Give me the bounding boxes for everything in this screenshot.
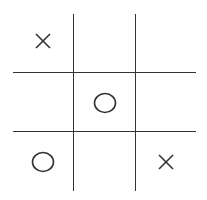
board-cell-1-2[interactable]: [136, 73, 196, 132]
board-cell-0-0[interactable]: [13, 14, 74, 73]
board-cell-1-0[interactable]: [13, 73, 74, 132]
board-cell-2-2[interactable]: [136, 132, 196, 191]
board-cell-0-1[interactable]: [74, 14, 136, 73]
board-cell-0-2[interactable]: [136, 14, 196, 73]
board-cell-1-1[interactable]: [74, 73, 136, 132]
board-cell-2-1[interactable]: [74, 132, 136, 191]
board-cell-2-0[interactable]: [13, 132, 74, 191]
